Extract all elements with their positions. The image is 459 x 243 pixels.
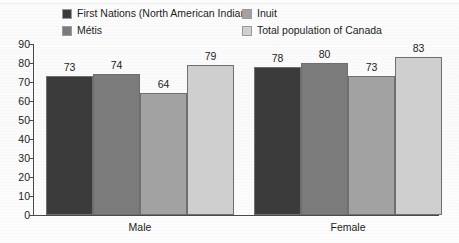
bar-value-male-total: 79 [187, 51, 234, 62]
bar-slot-male-metis[interactable]: 74 [93, 44, 140, 215]
bar-slot-male-total[interactable]: 79 [187, 44, 234, 215]
bar-value-male-inuit: 64 [140, 79, 187, 90]
y-tick-50: 50 [0, 115, 30, 125]
y-tick-60: 60 [0, 96, 30, 106]
bar-male-inuit[interactable] [140, 93, 187, 215]
bar-group-female: 78 80 73 83 [254, 44, 442, 215]
y-tick-30: 30 [0, 153, 30, 163]
top-divider [0, 3, 459, 4]
legend-swatch-inuit [242, 9, 252, 19]
bar-value-female-total: 83 [395, 43, 442, 54]
bar-slot-female-metis[interactable]: 80 [301, 44, 348, 215]
bar-group-male: 73 74 64 79 [46, 44, 234, 215]
bar-male-metis[interactable] [93, 74, 140, 215]
legend-label-inuit: Inuit [257, 8, 277, 19]
bar-value-female-first-nations: 78 [254, 53, 301, 64]
y-tick-40: 40 [0, 134, 30, 144]
legend-item-metis: Métis [62, 25, 242, 36]
plot-area: 90 80 70 60 50 40 30 20 10 0 73 [0, 44, 459, 243]
y-tick-70: 70 [0, 77, 30, 87]
bar-value-female-inuit: 73 [348, 62, 395, 73]
y-tickmark-0 [29, 215, 34, 216]
y-tick-80: 80 [0, 58, 30, 68]
bar-slot-male-inuit[interactable]: 64 [140, 44, 187, 215]
bar-value-male-first-nations: 73 [46, 62, 93, 73]
legend-swatch-metis [62, 26, 72, 36]
x-axis-line [33, 215, 439, 216]
x-label-female: Female [254, 222, 442, 233]
legend-item-total-population: Total population of Canada [242, 25, 422, 36]
y-axis: 90 80 70 60 50 40 30 20 10 0 [0, 44, 30, 216]
bar-female-inuit[interactable] [348, 76, 395, 215]
legend-item-first-nations: First Nations (North American Indian) [62, 8, 242, 19]
bar-slot-female-first-nations[interactable]: 78 [254, 44, 301, 215]
bar-female-first-nations[interactable] [254, 67, 301, 215]
bar-value-female-metis: 80 [301, 49, 348, 60]
chart-page: First Nations (North American Indian) In… [0, 0, 459, 243]
legend-swatch-total-population [242, 26, 252, 36]
y-tick-90: 90 [0, 39, 30, 49]
bar-slot-male-first-nations[interactable]: 73 [46, 44, 93, 215]
legend-label-metis: Métis [77, 25, 102, 36]
bar-female-metis[interactable] [301, 63, 348, 215]
bar-value-male-metis: 74 [93, 60, 140, 71]
bar-slot-female-inuit[interactable]: 73 [348, 44, 395, 215]
y-tick-10: 10 [0, 191, 30, 201]
y-tick-20: 20 [0, 172, 30, 182]
bar-female-total[interactable] [395, 57, 442, 215]
y-tick-0: 0 [0, 210, 30, 220]
legend-label-first-nations: First Nations (North American Indian) [77, 8, 250, 19]
bar-slot-female-total[interactable]: 83 [395, 44, 442, 215]
x-label-male: Male [46, 222, 234, 233]
legend-label-total-population: Total population of Canada [257, 25, 382, 36]
bar-male-first-nations[interactable] [46, 76, 93, 215]
legend-swatch-first-nations [62, 9, 72, 19]
bar-male-total[interactable] [187, 65, 234, 215]
legend-item-inuit: Inuit [242, 8, 422, 19]
chart-legend: First Nations (North American Indian) In… [62, 5, 422, 39]
bars-area: 73 74 64 79 Male [34, 44, 439, 215]
